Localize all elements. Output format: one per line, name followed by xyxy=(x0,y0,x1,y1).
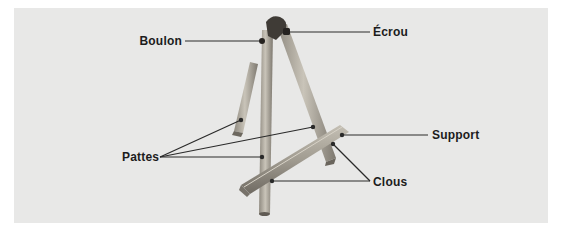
back-leg xyxy=(232,62,258,137)
nut xyxy=(283,28,290,35)
front-leg xyxy=(259,30,273,216)
leader-pattes-1 xyxy=(160,120,241,157)
label-clous: Clous xyxy=(373,175,407,189)
easel-illustration xyxy=(0,0,566,233)
label-support: Support xyxy=(432,128,479,142)
label-ecrou: Écrou xyxy=(373,25,408,39)
label-pattes: Pattes xyxy=(122,150,159,164)
leader-clous-1 xyxy=(333,144,370,181)
label-boulon: Boulon xyxy=(139,34,182,48)
